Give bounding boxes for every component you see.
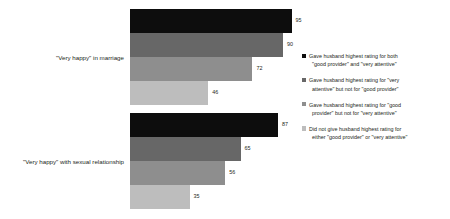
- bar-g1-s3: [130, 185, 190, 209]
- legend-label-neither: Did not give husband highest rating for …: [309, 125, 450, 142]
- legend-label-both-line2: "good provider" and "very attentive": [309, 60, 450, 68]
- legend-label-both: Gave husband highest rating for both "go…: [309, 52, 450, 69]
- bar-g0-s3: [130, 81, 208, 105]
- bar-value-g0-s2: 72: [256, 66, 262, 71]
- bar-value-g0-s0: 95: [296, 18, 302, 23]
- legend-swatch-icon-provider-only: [302, 102, 306, 106]
- bar-g0-s0: [130, 9, 292, 33]
- legend-label-attentive-only-line2: attentive" but not for "good provider": [309, 85, 450, 93]
- bar-group-marriage: "Very happy" in marriage 95 90 72 46: [0, 9, 300, 106]
- bar-group-sexual-relationship: "Very happy" with sexual relationship 87…: [0, 113, 300, 210]
- bar-g0-s1: [130, 33, 283, 57]
- bar-value-g1-s1: 65: [245, 146, 251, 151]
- legend-swatch-icon-neither: [302, 126, 306, 130]
- bar-value-g0-s3: 46: [212, 90, 218, 95]
- legend-swatch-icon-both: [302, 54, 306, 58]
- bar-g1-s1: [130, 137, 241, 161]
- bar-chart: "Very happy" in marriage 95 90 72 46 "Ve…: [0, 0, 450, 219]
- legend-label-both-line1: Gave husband highest rating for both: [309, 53, 398, 59]
- legend-label-neither-line1: Did not give husband highest rating for: [309, 126, 401, 132]
- legend-label-provider-only-line1: Gave husband highest rating for "good: [309, 102, 401, 108]
- bar-value-g1-s2: 56: [229, 170, 235, 175]
- category-label-sexual-relationship: "Very happy" with sexual relationship: [23, 158, 124, 164]
- category-label-marriage: "Very happy" in marriage: [56, 54, 124, 60]
- bar-g1-s0: [130, 113, 278, 137]
- legend-item-provider-only: Gave husband highest rating for "good pr…: [302, 101, 450, 118]
- legend-label-neither-line2: either "good provider" or "very attentiv…: [309, 133, 450, 141]
- legend-item-both: Gave husband highest rating for both "go…: [302, 52, 450, 69]
- legend-label-provider-only: Gave husband highest rating for "good pr…: [309, 101, 450, 118]
- bar-g0-s2: [130, 57, 252, 81]
- bar-value-g1-s3: 35: [194, 194, 200, 199]
- bar-value-g0-s1: 90: [287, 42, 293, 47]
- bar-g1-s2: [130, 161, 225, 185]
- legend-label-provider-only-line2: provider" but not for "very attentive": [309, 109, 450, 117]
- legend-item-neither: Did not give husband highest rating for …: [302, 125, 450, 142]
- plot-area: "Very happy" in marriage 95 90 72 46 "Ve…: [0, 0, 300, 219]
- legend-item-attentive-only: Gave husband highest rating for "very at…: [302, 76, 450, 93]
- legend-label-attentive-only: Gave husband highest rating for "very at…: [309, 76, 450, 93]
- legend-label-attentive-only-line1: Gave husband highest rating for "very: [309, 77, 399, 83]
- chart-legend: Gave husband highest rating for both "go…: [302, 52, 450, 149]
- legend-swatch-icon-attentive-only: [302, 78, 306, 82]
- bar-value-g1-s0: 87: [282, 122, 288, 127]
